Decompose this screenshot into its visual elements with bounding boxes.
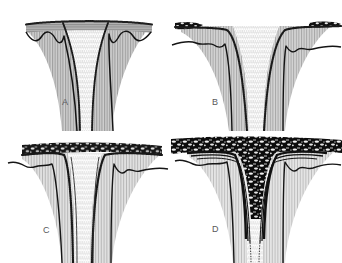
figure-container: A B C D — [0, 0, 342, 263]
panel-c — [0, 131, 171, 263]
central-funnel — [0, 0, 171, 131]
panel-b — [171, 0, 342, 131]
panel-label-d: D — [212, 225, 219, 234]
panel-label-c: C — [43, 226, 50, 235]
central-funnel — [171, 0, 342, 131]
panel-label-a: A — [62, 98, 68, 107]
panel-a — [0, 0, 171, 131]
panel-d — [171, 131, 342, 263]
panel-label-b: B — [212, 98, 218, 107]
